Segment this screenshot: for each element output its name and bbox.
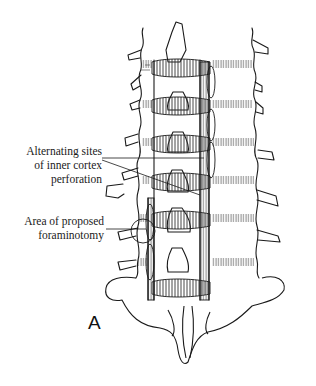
annotation-proposed-foraminotomy: Area of proposed foraminotomy: [8, 214, 104, 242]
spine-drawing: [0, 0, 316, 386]
annotation-line: Area of proposed: [8, 214, 104, 228]
annotation-line: perforation: [8, 172, 102, 186]
panel-label: A: [88, 312, 101, 334]
annotation-alternating-sites: Alternating sites of inner cortex perfor…: [8, 144, 102, 186]
annotation-line: Alternating sites: [8, 144, 102, 158]
annotation-line: foraminotomy: [8, 228, 104, 242]
spine-illustration: Alternating sites of inner cortex perfor…: [0, 0, 316, 386]
annotation-line: of inner cortex: [8, 158, 102, 172]
